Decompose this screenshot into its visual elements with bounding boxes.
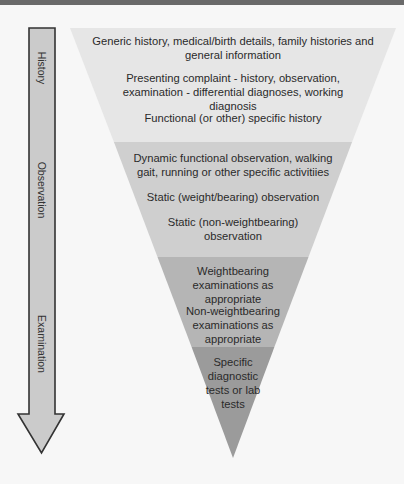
observation-item-dynamic: Dynamic functional observation, walking … (128, 151, 338, 179)
history-item-presenting-complaint: Presenting complaint - history, observat… (98, 71, 368, 113)
diagnostic-tests-item: Specific diagnostic tests or lab tests (203, 355, 263, 411)
history-item-general: Generic history, medical/birth details, … (80, 34, 386, 62)
observation-item-static-non-weightbearing: Static (non-weightbearing) observation (160, 215, 306, 243)
observation-item-static-weightbearing: Static (weight/bearing) observation (140, 190, 326, 204)
arrow-label-examination: Examination (35, 284, 49, 404)
examination-item-weightbearing: Weightbearing examinations as appropriat… (166, 264, 300, 306)
examination-item-non-weightbearing: Non-weightbearing examinations as approp… (184, 304, 282, 346)
arrow-label-history: History (35, 8, 49, 128)
arrow-label-observation: Observation (35, 130, 49, 250)
history-item-functional: Functional (or other) specific history (110, 111, 356, 125)
